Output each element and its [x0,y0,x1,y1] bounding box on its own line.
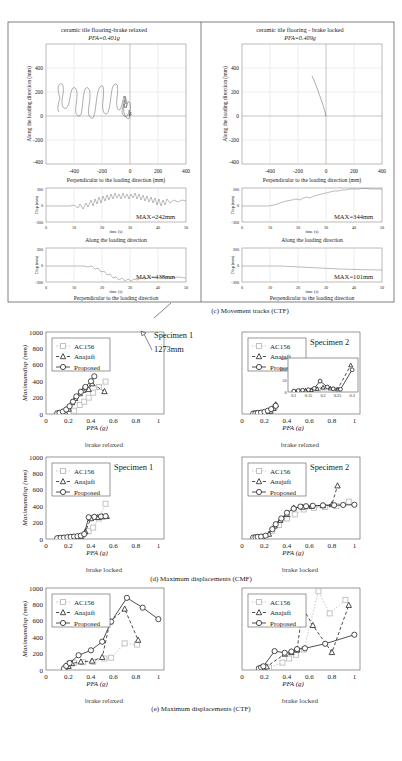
d-s2-locked-legend-marker-proposed [256,489,261,494]
right-ts2-caption: Perpendicular to the loading direction [270,295,355,301]
right-ts1-xtick-40: 40 [352,225,356,230]
right-xtick-m400: -400 [265,168,275,174]
left-ts-along: 300 0 -300 0 10 20 30 40 50 time (s) Dis… [34,187,188,243]
right-ytick-200: 200 [231,89,239,95]
inset-xtick-0.1: 0.1 [291,393,296,398]
right-ts1-ytick-0: 0 [237,203,239,208]
d-s1-locked-pt-proposed [82,531,87,536]
d-s2-locked-xlabel: PFA (g) [281,549,304,557]
left-ts2-xlabel: time (s) [110,289,124,294]
left-ts1-ytick-300: 300 [37,187,43,192]
e-locked-xtick-0.8: 0.8 [328,673,337,681]
right-ts2-xtick-0: 0 [241,285,243,290]
d-s2-locked-xtick-0.8: 0.8 [328,542,337,550]
left-track-ylabel: Along the loading direction (mm) [26,66,33,142]
right-ts1-ylabel: Disp (mm) [230,195,235,214]
d-s1-relaxed-ytick-800: 800 [33,345,44,353]
d-s1-locked-legend-label-proposed: Proposed [74,489,101,497]
d-s1-locked-xtick-0: 0 [44,542,48,550]
d-s2-relaxed-pt-proposed [269,406,274,411]
d-s2-locked-legend-marker-ac156 [257,469,262,474]
inset-pt-proposed [331,387,335,391]
d-s2-relaxed-xtick-0.6: 0.6 [305,417,314,425]
e-relaxed-pt-ac156 [122,641,127,646]
left-ts2-ytick-0: 0 [41,263,43,268]
annotation-specimen-1-locked: Specimen 1 [114,463,153,472]
left-ts2-max-label: MAX=438mm [136,273,176,280]
d-s1-relaxed-pt-proposed [70,399,75,404]
d-s1-relaxed-ytick-200: 200 [33,394,44,402]
d-s2-relaxed-xtick-1: 1 [353,417,357,425]
right-xtick-200: 200 [350,168,358,174]
d-s2-locked-legend-label-ac156: AC156 [270,468,291,476]
e-relaxed-pt-ac156 [109,655,114,660]
left-ts1-ytick-m300: -300 [35,220,43,225]
d-s2-relaxed-legend-marker-ac156 [257,344,262,349]
inset-pt-proposed [325,385,329,389]
e-relaxed-pt-anajafi [122,606,127,611]
d-s2-locked-pt-proposed [332,503,337,508]
left-xtick-m400: -400 [69,168,79,174]
e-locked-xtick-1: 1 [353,673,357,681]
d-s1-relaxed-pt-proposed [74,394,79,399]
d-s1-relaxed-legend-label-anajafi: Anajafi [74,353,95,361]
right-track-plot: 400 200 0 -200 -400 -400 -200 0 200 400 … [222,44,386,184]
e-relaxed-legend-label-proposed: Proposed [74,620,101,628]
figure-svg: ceramic tile flooring-brake relaxed PFA=… [0,0,402,761]
inset-xtick-0.3: 0.3 [350,393,355,398]
d-s1-relaxed-xtick-0.2: 0.2 [64,417,73,425]
left-ts1-xtick-10: 10 [72,225,76,230]
panel-d-caption: (d) Maximum displacements (CMF) [150,575,252,583]
right-ts1-ytick-300: 300 [233,187,239,192]
d-s1-locked-ytick-600: 600 [33,486,44,494]
right-track-ylabel: Along the loading direction (mm) [222,66,229,142]
row1-sub-right: brake relaxed [281,441,319,449]
left-ts1-xtick-30: 30 [128,225,132,230]
right-ts1-max-label: MAX=344mm [334,213,374,220]
right-ts-perp: 300 0 -300 0 10 20 30 40 50 time (s) Dis… [230,247,384,301]
row1-sub-left: brake relaxed [85,441,123,449]
d-s1-relaxed-ylabel: Maximumdisp (mm) [21,344,29,402]
e-locked-pt-anajafi [310,622,315,627]
d-s2-locked-pt-ac156 [292,512,297,517]
e-locked-pt-ac156 [287,656,292,661]
e-locked-legend-marker-ac156 [257,600,262,605]
d-s2-locked-pt-proposed [284,510,289,515]
e-relaxed-legend-label-ac156: AC156 [74,599,95,607]
e-locked-xlabel: PFA (g) [281,680,304,688]
d-s1-relaxed-pt-proposed [67,404,72,409]
d-s2-relaxed-legend-marker-proposed [256,364,261,369]
right-ytick-m400: -400 [229,159,239,165]
inset-pt-proposed [301,388,305,392]
e-relaxed-legend-marker-proposed [60,620,65,625]
d-s1-locked-legend-marker-proposed [60,489,65,494]
e-locked-pt-proposed [289,649,294,654]
d-s1-locked-legend-label-ac156: AC156 [74,468,95,476]
right-ts1-xtick-10: 10 [268,225,272,230]
left-track-plot: 400 200 0 -200 -400 -400 -200 0 200 400 … [26,44,190,184]
d-s1-relaxed-legend-label-proposed: Proposed [74,364,101,372]
d-s1-relaxed-xlabel: PFA (g) [85,424,108,432]
d-s1-locked-pt-proposed [86,515,91,520]
left-ts2-caption: Perpendicular to the loading direction [74,295,159,301]
left-ts2-ytick-m300: -300 [35,280,43,285]
d-s2-locked-pt-proposed [352,502,357,507]
e-relaxed-ytick-0: 0 [40,667,44,675]
left-ts2-ytick-300: 300 [37,247,43,252]
d-s2-locked-xtick-0.6: 0.6 [305,542,314,550]
e-locked-pt-proposed [272,649,277,654]
annotation-specimen-1: Specimen 1 [154,331,193,340]
row3-sub-left: brake relaxed [85,697,123,705]
d-s2-locked-pt-proposed [303,504,308,509]
d-s1-locked-pt-ac156 [103,501,108,506]
e-relaxed-pt-proposed [88,648,93,653]
e-locked-pt-ac156 [316,589,321,594]
right-ts1-xtick-30: 30 [324,225,328,230]
e-relaxed-xtick-0.6: 0.6 [109,673,118,681]
inset-ytick-100: 100 [280,367,286,372]
d-s2-locked-pt-anajafi [335,483,340,488]
d-s1-relaxed-ytick-1000: 1000 [29,329,44,337]
d-s1-locked-xtick-0.6: 0.6 [109,542,118,550]
right-xtick-0: 0 [325,168,328,174]
left-xtick-m200: -200 [97,168,107,174]
